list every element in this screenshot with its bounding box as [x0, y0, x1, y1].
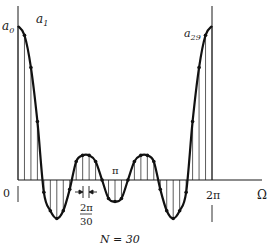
sample-point: [184, 191, 188, 195]
sample-point: [29, 66, 33, 70]
sample-point: [165, 209, 169, 213]
sample-point: [191, 120, 195, 124]
sample-point: [146, 154, 150, 158]
label-omega: Ω: [257, 188, 267, 202]
caption: N = 30: [99, 233, 140, 246]
sample-point: [139, 154, 143, 158]
sample-point: [74, 160, 78, 164]
frequency-sampling-diagram: a0 a1 a29 π 0 2π Ω 2π 30 N = 30: [0, 0, 275, 247]
sample-point: [126, 178, 130, 182]
sample-point: [68, 187, 72, 191]
sample-point: [94, 160, 98, 164]
sample-point: [113, 200, 117, 204]
sample-stems: [18, 26, 212, 219]
label-two-pi: 2π: [206, 189, 220, 202]
sample-point: [158, 187, 162, 191]
sample-point: [204, 33, 208, 37]
sample-point: [49, 209, 53, 213]
sample-point: [87, 154, 91, 158]
sample-point: [107, 197, 111, 201]
sample-point: [178, 209, 182, 213]
sample-point: [152, 160, 156, 164]
sample-point: [120, 197, 124, 201]
sample-point: [55, 217, 59, 221]
sample-point: [197, 66, 201, 70]
label-spacing-numerator: 2π: [80, 202, 93, 213]
label-a0: a0: [2, 19, 14, 35]
label-zero: 0: [3, 187, 10, 200]
sample-point: [23, 33, 27, 37]
label-pi: π: [112, 165, 119, 176]
label-a1: a1: [36, 12, 48, 28]
sample-point: [133, 160, 137, 164]
sample-point: [42, 191, 46, 195]
sample-point: [81, 154, 85, 158]
sample-point: [100, 178, 104, 182]
sample-point: [61, 209, 65, 213]
label-a29: a29: [184, 27, 201, 42]
label-spacing-denominator: 30: [80, 216, 93, 227]
sample-point: [171, 217, 175, 221]
sample-point: [36, 120, 40, 124]
